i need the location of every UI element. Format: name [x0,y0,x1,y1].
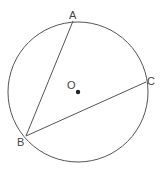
center-dot [76,90,80,94]
label-o: O [67,79,76,91]
label-b: B [17,136,24,148]
label-c: C [147,75,155,87]
chord-bc [26,82,146,136]
circle-diagram: A B C O [0,0,162,171]
label-a: A [69,9,77,21]
